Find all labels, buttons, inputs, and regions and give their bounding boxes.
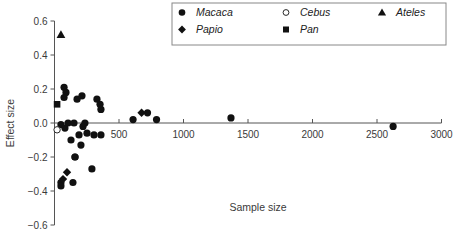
x-tick-label: 500 — [111, 129, 128, 140]
x-tick-label: 1500 — [237, 129, 260, 140]
y-tick-label: 0.4 — [34, 50, 48, 61]
data-point-macaca — [83, 130, 90, 137]
data-point-macaca — [153, 116, 160, 123]
data-point-macaca — [71, 153, 78, 160]
y-tick-label: −0.6 — [28, 220, 48, 231]
legend-label: Pan — [300, 23, 319, 35]
data-point-macaca — [88, 165, 95, 172]
data-point-macaca — [60, 94, 67, 101]
open-circle-icon — [283, 10, 289, 16]
y-tick-label: 0.6 — [34, 16, 48, 27]
square-icon — [283, 27, 289, 33]
data-point-macaca — [78, 92, 85, 99]
data-point-cebus — [54, 127, 60, 133]
y-tick-label: 0.0 — [34, 118, 48, 129]
x-tick-label: 3000 — [430, 129, 453, 140]
data-point-macaca — [227, 114, 234, 121]
data-point-macaca — [81, 119, 88, 126]
x-axis-title: Sample size — [229, 201, 286, 213]
data-point-macaca — [77, 142, 84, 149]
legend-label: Ateles — [395, 6, 426, 18]
data-point-macaca — [69, 179, 76, 186]
legend-label: Macaca — [196, 6, 233, 18]
legend-label: Papio — [196, 23, 223, 35]
x-tick-label: 2000 — [301, 129, 324, 140]
legend-label: Cebus — [300, 6, 331, 18]
y-tick-labels: −0.6−0.4−0.20.00.20.40.6 — [28, 16, 48, 231]
data-point-macaca — [67, 136, 74, 143]
circle-icon — [179, 9, 186, 16]
data-point-macaca — [75, 131, 82, 138]
data-point-macaca — [57, 182, 64, 189]
data-point-pan — [54, 101, 61, 108]
series-ateles — [57, 30, 66, 38]
data-point-macaca — [97, 131, 104, 138]
axes — [51, 21, 442, 225]
data-point-papio — [137, 109, 145, 117]
data-point-papio — [63, 168, 71, 176]
series-macaca — [57, 84, 396, 190]
data-point-ateles — [57, 30, 66, 38]
data-point-macaca — [390, 123, 397, 130]
legend: MacacaCebusAtelesPapioPan — [172, 3, 446, 45]
scatter-chart: −0.6−0.4−0.20.00.20.40.6 500100015002000… — [0, 0, 460, 237]
data-points — [54, 30, 397, 189]
series-cebus — [54, 127, 60, 133]
x-tick-labels: 50010001500200025003000 — [111, 129, 453, 140]
x-tick-label: 1000 — [172, 129, 195, 140]
y-tick-label: 0.2 — [34, 84, 48, 95]
data-point-macaca — [90, 131, 97, 138]
data-point-macaca — [70, 119, 77, 126]
y-tick-label: −0.4 — [28, 186, 48, 197]
data-point-macaca — [129, 116, 136, 123]
y-tick-label: −0.2 — [28, 152, 48, 163]
data-point-macaca — [97, 106, 104, 113]
x-tick-label: 2500 — [366, 129, 389, 140]
series-pan — [54, 101, 61, 108]
y-axis-title: Effect size — [4, 99, 16, 147]
